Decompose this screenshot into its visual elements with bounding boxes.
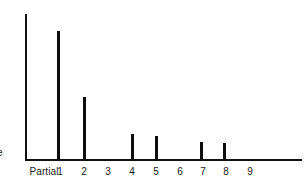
chart-figure: e Partial123456789 [0,0,307,188]
x-tick-label-1: 1 [57,166,63,177]
x-tick-label-2: 2 [81,166,87,177]
x-axis-line [25,159,302,161]
plot-area: Partial123456789 [0,0,307,188]
bar-partial-7 [200,142,203,159]
x-tick-label-6: 6 [177,166,183,177]
bar-partial-1 [57,31,60,159]
x-tick-label-3: 3 [105,166,111,177]
y-axis-line [25,14,27,161]
x-tick-label-5: 5 [153,166,159,177]
x-tick-label-4: 4 [129,166,135,177]
bar-partial-4 [131,134,134,159]
x-tick-label-8: 8 [223,166,229,177]
bar-partial-2 [83,97,86,159]
bar-partial-5 [155,136,158,159]
x-tick-label-7: 7 [200,166,206,177]
x-axis-title: Partial [29,166,58,177]
x-tick-label-9: 9 [247,166,253,177]
bar-partial-8 [223,143,226,159]
